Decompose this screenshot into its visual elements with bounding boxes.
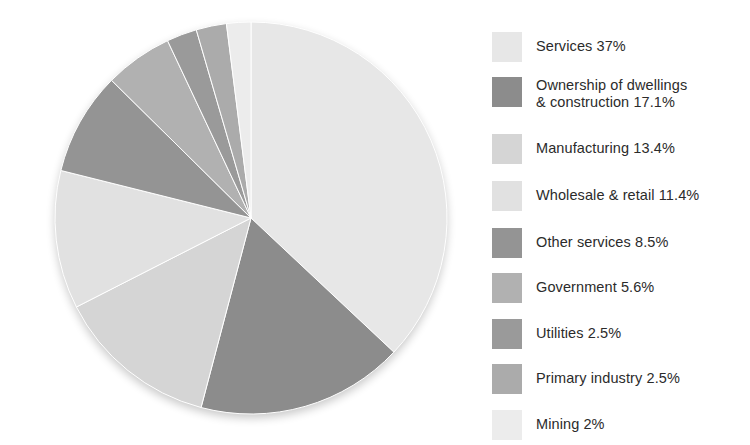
legend-swatch xyxy=(492,77,522,107)
legend-swatch xyxy=(492,32,522,62)
legend-swatch xyxy=(492,319,522,349)
pie-slices-group: Services 37%Ownership of dwellings & con… xyxy=(55,22,447,414)
legend-label: Ownership of dwellings & construction 17… xyxy=(536,77,687,111)
legend-label: Other services 8.5% xyxy=(536,228,668,251)
legend-label: Manufacturing 13.4% xyxy=(536,134,675,157)
legend-item[interactable]: Services 37% xyxy=(492,32,626,62)
legend-label: Services 37% xyxy=(536,32,626,55)
legend-swatch xyxy=(492,228,522,258)
legend-item[interactable]: Mining 2% xyxy=(492,410,605,440)
chart-legend: Services 37%Ownership of dwellings & con… xyxy=(492,14,748,434)
pie-chart-graphic: Services 37%Ownership of dwellings & con… xyxy=(0,0,480,445)
legend-swatch xyxy=(492,181,522,211)
legend-item[interactable]: Ownership of dwellings & construction 17… xyxy=(492,77,687,111)
legend-label: Utilities 2.5% xyxy=(536,319,621,342)
legend-label: Wholesale & retail 11.4% xyxy=(536,181,699,204)
legend-item[interactable]: Manufacturing 13.4% xyxy=(492,134,675,164)
legend-label: Mining 2% xyxy=(536,410,605,433)
legend-label: Primary industry 2.5% xyxy=(536,364,680,387)
legend-item[interactable]: Government 5.6% xyxy=(492,273,654,303)
legend-item[interactable]: Wholesale & retail 11.4% xyxy=(492,181,699,211)
legend-swatch xyxy=(492,273,522,303)
legend-item[interactable]: Primary industry 2.5% xyxy=(492,364,680,394)
legend-swatch xyxy=(492,410,522,440)
legend-label: Government 5.6% xyxy=(536,273,654,296)
legend-swatch xyxy=(492,364,522,394)
legend-item[interactable]: Other services 8.5% xyxy=(492,228,668,258)
legend-swatch xyxy=(492,134,522,164)
legend-item[interactable]: Utilities 2.5% xyxy=(492,319,621,349)
pie-svg: Services 37%Ownership of dwellings & con… xyxy=(0,0,480,445)
pie-chart-figure: Services 37%Ownership of dwellings & con… xyxy=(0,0,750,445)
